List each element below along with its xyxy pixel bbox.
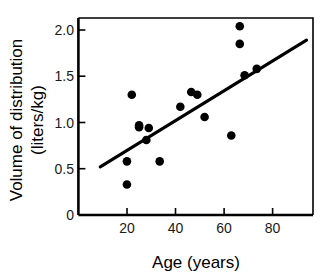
scatter-point	[123, 180, 132, 189]
x-axis-title: Age (years)	[152, 253, 240, 272]
scatter-point	[193, 90, 202, 99]
plot-frame	[78, 18, 313, 215]
scatter-point	[135, 123, 144, 132]
y-axis-title-line1: Volume of distribution	[7, 39, 26, 202]
scatter-point	[240, 71, 249, 80]
y-axis-title-line2: (liters/kg)	[28, 85, 47, 155]
scatter-point	[123, 157, 132, 166]
y-tick-label-0: 0	[66, 207, 74, 223]
scatter-point	[235, 22, 244, 31]
plot-border-top-right	[78, 18, 313, 215]
x-tick-label-20: 20	[119, 220, 135, 236]
x-tick-label-60: 60	[216, 220, 232, 236]
scatter-point	[227, 131, 236, 140]
x-tick-label-80: 80	[265, 220, 281, 236]
x-axis-tick-labels: 20 40 60 80	[119, 220, 280, 236]
scatter-point	[176, 102, 185, 111]
scatter-point	[144, 124, 153, 133]
y-tick-label-0-5: 0.5	[55, 161, 75, 177]
scatter-marker-group	[123, 22, 261, 189]
y-tick-label-1-5: 1.5	[55, 68, 75, 84]
y-tick-label-2-0: 2.0	[55, 22, 75, 38]
scatter-point	[142, 136, 151, 145]
scatter-plot: 2.0 1.5 1.0 0.5 0 20 40 60 80 Age (years…	[0, 0, 330, 280]
y-axis-tick-labels: 2.0 1.5 1.0 0.5 0	[55, 22, 75, 223]
scatter-point	[127, 90, 136, 99]
y-tick-label-1-0: 1.0	[55, 115, 75, 131]
x-tick-label-40: 40	[168, 220, 184, 236]
chart-figure: 2.0 1.5 1.0 0.5 0 20 40 60 80 Age (years…	[0, 0, 330, 280]
scatter-point	[235, 40, 244, 49]
scatter-point	[200, 113, 209, 122]
scatter-point	[155, 157, 164, 166]
scatter-point	[252, 65, 261, 74]
regression-line	[100, 40, 306, 167]
